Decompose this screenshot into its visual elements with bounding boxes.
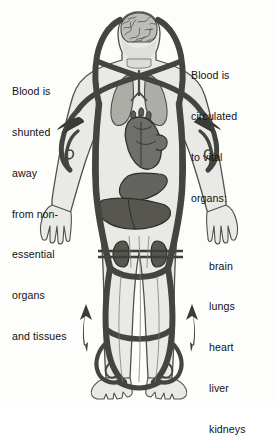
- heart-auricle: [156, 135, 167, 151]
- neck: [127, 59, 151, 68]
- caption-left-line-4: from non-: [12, 208, 67, 222]
- vital-organs-caption: Blood is circulated to vital organs: bra…: [191, 42, 246, 439]
- caption-right-line-1: Blood is: [191, 69, 246, 83]
- shunt-arrow-lower-left-head: [80, 304, 92, 320]
- vessel-foot-arch: [118, 382, 160, 388]
- organ-item-liver: liver: [191, 382, 246, 396]
- caption-left-line-5: essential: [12, 248, 67, 262]
- vital-organ-list: brain lungs heart liver kidneys: [191, 232, 246, 439]
- organ-item-lungs: lungs: [191, 300, 246, 314]
- organ-item-brain: brain: [191, 260, 246, 274]
- kidney-left: [113, 241, 129, 267]
- brain-organ: [121, 13, 157, 42]
- caption-left-line-1: Blood is: [12, 85, 67, 99]
- caption-right-line-2: circulated: [191, 110, 246, 124]
- caption-left-line-3: away: [12, 167, 67, 181]
- shunted-away-caption: Blood is shunted away from non- essentia…: [12, 58, 67, 371]
- caption-right-line-4: organs:: [191, 192, 246, 206]
- caption-left-line-6: organs: [12, 289, 67, 303]
- caption-left-line-2: shunted: [12, 126, 67, 140]
- organ-item-heart: heart: [191, 341, 246, 355]
- caption-right-line-3: to vital: [191, 151, 246, 165]
- organ-item-kidneys: kidneys: [191, 423, 246, 437]
- caption-left-line-7: and tissues: [12, 330, 67, 344]
- kidney-right: [151, 241, 167, 267]
